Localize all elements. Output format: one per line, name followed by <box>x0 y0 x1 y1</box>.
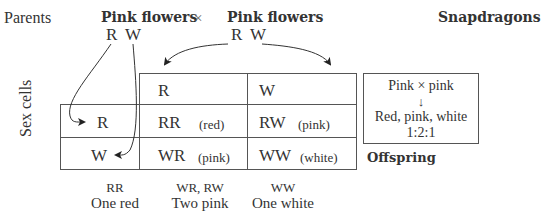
arrow-right-w-to-col-w <box>262 44 330 64</box>
arrow-left-r-to-row-r <box>70 44 111 122</box>
arrow-right-r-to-col-r <box>165 44 228 64</box>
arrow-left-w-to-row-w <box>116 44 136 155</box>
